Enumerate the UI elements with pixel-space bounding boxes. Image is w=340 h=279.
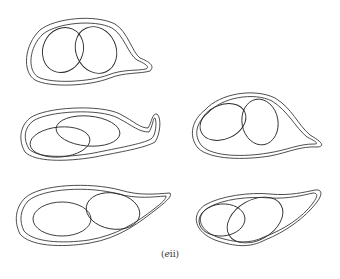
cell-panel-middle-right: [192, 93, 321, 159]
cell-panel-middle-left: [21, 108, 160, 160]
figure-caption: (eii): [0, 249, 340, 259]
caption-close-paren: ): [176, 249, 180, 259]
figure-drawing: [0, 0, 340, 279]
cell-panel-bottom-right: [196, 188, 321, 253]
cell-panel-bottom-left: [16, 185, 170, 245]
cell-panel-top-left: [26, 18, 151, 85]
